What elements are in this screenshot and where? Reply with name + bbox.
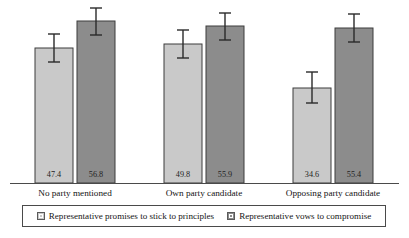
- category-label-0: No party mentioned: [38, 188, 112, 198]
- category-label-2: Opposing party candidate: [286, 188, 380, 198]
- value-label-series2-cat1: 56.8: [89, 170, 103, 179]
- bar-series2-cat2: [206, 26, 244, 183]
- legend-entry-series1[interactable]: Representative promises to stick to prin…: [37, 211, 214, 221]
- legend-entry-series2[interactable]: Representative vows to compromise: [227, 211, 371, 221]
- dark-gray-swatch-icon: [227, 212, 235, 220]
- bar-chart: 47.4 56.8 49.8 55.9 34.6 55.4 No party m…: [0, 0, 409, 238]
- bar-series2-cat3: [335, 28, 373, 183]
- bar-series1-cat1: [35, 48, 73, 183]
- legend-label-series1: Representative promises to stick to prin…: [49, 211, 214, 221]
- bar-series1-cat2: [164, 44, 202, 183]
- value-label-series2-cat3: 55.4: [347, 170, 361, 179]
- category-label-1: Own party candidate: [166, 188, 243, 198]
- value-label-series1-cat3: 34.6: [305, 170, 319, 179]
- value-label-series2-cat2: 55.9: [218, 170, 232, 179]
- light-gray-swatch-icon: [37, 212, 45, 220]
- bar-series2-cat1: [77, 21, 115, 183]
- legend-label-series2: Representative vows to compromise: [239, 211, 371, 221]
- chart-plot-area: 47.4 56.8 49.8 55.9 34.6 55.4 No party m…: [0, 0, 409, 238]
- value-label-series1-cat2: 49.8: [176, 170, 190, 179]
- value-label-series1-cat1: 47.4: [47, 170, 61, 179]
- chart-legend: Representative promises to stick to prin…: [22, 205, 386, 227]
